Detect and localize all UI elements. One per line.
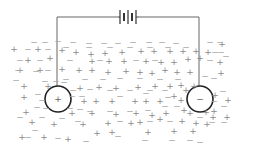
- positive-ion: +: [127, 119, 135, 128]
- positive-ion: +: [196, 54, 204, 63]
- positive-ion: +: [131, 97, 139, 106]
- positive-ion: +: [46, 54, 54, 63]
- negative-ion: −: [210, 97, 218, 106]
- positive-ion: +: [92, 97, 100, 106]
- negative-ion: −: [31, 126, 39, 135]
- negative-ion: −: [16, 56, 24, 65]
- positive-ion: +: [156, 115, 164, 124]
- negative-ion: −: [16, 113, 24, 122]
- negative-ion: −: [38, 113, 46, 122]
- negative-ion: −: [82, 137, 90, 146]
- negative-ion: −: [141, 136, 149, 145]
- positive-ion: +: [186, 109, 194, 118]
- positive-ion: +: [184, 55, 192, 64]
- negative-ion: −: [62, 43, 70, 52]
- positive-ion: +: [40, 133, 48, 142]
- negative-ion: −: [106, 107, 114, 116]
- negative-ion: −: [106, 86, 114, 95]
- negative-ion: −: [164, 43, 172, 52]
- negative-ion: −: [60, 78, 68, 87]
- negative-ion: −: [186, 136, 194, 145]
- negative-ion: −: [33, 103, 41, 112]
- negative-ion: −: [116, 92, 124, 101]
- negative-ion: −: [116, 117, 124, 126]
- negative-ion: −: [206, 56, 214, 65]
- positive-ion: +: [217, 69, 225, 78]
- negative-ion: −: [14, 66, 22, 75]
- negative-ion: −: [146, 117, 154, 126]
- negative-ion: −: [144, 106, 152, 115]
- positive-ion: +: [178, 117, 186, 126]
- negative-ion: −: [210, 74, 218, 83]
- positive-ion: +: [58, 65, 66, 74]
- positive-ion: +: [24, 56, 32, 65]
- negative-ion: −: [219, 87, 227, 96]
- negative-ion: −: [44, 66, 52, 75]
- negative-ion: −: [114, 39, 122, 48]
- positive-ion: +: [182, 86, 190, 95]
- negative-ion: −: [86, 85, 94, 94]
- negative-ion: −: [52, 77, 60, 86]
- negative-ion: −: [69, 38, 77, 47]
- negative-ion: −: [74, 117, 82, 126]
- negative-ion: −: [222, 52, 230, 61]
- negative-ion: −: [220, 118, 228, 127]
- negative-ion: −: [54, 37, 62, 46]
- negative-ion: −: [96, 56, 104, 65]
- negative-ion: −: [142, 89, 150, 98]
- negative-ion: −: [106, 43, 114, 52]
- negative-ion: −: [24, 45, 32, 54]
- negative-ion: −: [132, 56, 140, 65]
- positive-ion: +: [93, 129, 101, 138]
- negative-ion: −: [116, 74, 124, 83]
- negative-ion: −: [44, 45, 52, 54]
- negative-ion: −: [58, 114, 66, 123]
- negative-ion: −: [32, 67, 40, 76]
- negative-ion: −: [196, 113, 204, 122]
- negative-ion: −: [220, 102, 228, 111]
- positive-ion: +: [10, 45, 18, 54]
- positive-ion: +: [148, 69, 156, 78]
- negative-ion: −: [151, 56, 159, 65]
- positive-ion: +: [108, 97, 116, 106]
- negative-ion: −: [85, 43, 93, 52]
- negative-ion: −: [99, 75, 107, 84]
- positive-ion: +: [142, 57, 150, 66]
- negative-ion: −: [126, 86, 134, 95]
- positive-ion: +: [136, 118, 144, 127]
- positive-ion: +: [190, 82, 198, 91]
- positive-ion: +: [134, 83, 142, 92]
- cathode-symbol: −: [196, 95, 204, 104]
- negative-ion: −: [173, 102, 181, 111]
- negative-ion: −: [156, 75, 164, 84]
- positive-ion: +: [95, 83, 103, 92]
- positive-ion: +: [50, 120, 58, 129]
- positive-ion: +: [20, 93, 28, 102]
- positive-ion: +: [64, 135, 72, 144]
- negative-ion: −: [78, 92, 86, 101]
- negative-ion: −: [126, 107, 134, 116]
- negative-ion: −: [206, 38, 214, 47]
- negative-ion: −: [161, 102, 169, 111]
- electrolysis-diagram: ++++++++++++++++++++++++++++++++++++++++…: [0, 0, 257, 153]
- negative-ion: −: [126, 43, 134, 52]
- anode-symbol: +: [54, 95, 62, 104]
- positive-ion: +: [20, 82, 28, 91]
- positive-ion: +: [170, 58, 178, 67]
- negative-ion: −: [146, 43, 154, 52]
- negative-ion: −: [172, 39, 180, 48]
- battery-icon: [118, 10, 139, 24]
- negative-ion: −: [196, 138, 204, 147]
- negative-ion: −: [86, 107, 94, 116]
- negative-ion: −: [81, 75, 89, 84]
- negative-ion: −: [54, 134, 62, 143]
- negative-ion: −: [76, 105, 84, 114]
- negative-ion: −: [68, 92, 76, 101]
- negative-ion: −: [208, 118, 216, 127]
- negative-ion: −: [41, 77, 49, 86]
- negative-ion: −: [66, 104, 74, 113]
- negative-ion: −: [216, 38, 224, 47]
- positive-ion: +: [105, 57, 113, 66]
- negative-ion: −: [168, 136, 176, 145]
- negative-ion: −: [12, 76, 20, 85]
